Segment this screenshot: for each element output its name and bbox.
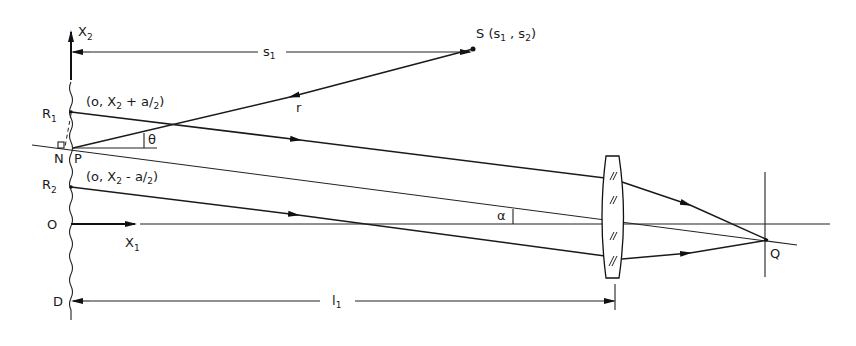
- r-label: r: [296, 100, 302, 115]
- lens: [602, 156, 624, 278]
- ray-R1: R1 (o, X2 + a/2): [42, 94, 768, 240]
- optics-diagram: X2 s1 S (s1 , s2) r R1 (o, X2 + a/2) N P: [0, 0, 856, 346]
- alpha-label: α: [497, 208, 506, 223]
- theta-label: θ: [148, 132, 156, 147]
- R1-coord-label: (o, X2 + a/2): [86, 94, 164, 111]
- Q-label: Q: [770, 246, 780, 261]
- N-label: N: [54, 151, 64, 166]
- source-point: S (s1 , s2): [471, 26, 536, 52]
- right-angle-marker: [58, 142, 64, 148]
- l1-label: l1: [332, 293, 341, 310]
- R2-coord-label: (o, X2 - a/2): [86, 169, 158, 186]
- diagram-canvas: X2 s1 S (s1 , s2) r R1 (o, X2 + a/2) N P: [0, 0, 856, 346]
- source-label: S (s1 , s2): [476, 26, 536, 43]
- s1-label: s1: [263, 44, 276, 61]
- ray-R2: R2 (o, X2 - a/2): [42, 169, 768, 259]
- D-label: D: [53, 294, 63, 309]
- l1-dimension: l1 D: [53, 284, 615, 310]
- R1-label: R1: [42, 106, 57, 124]
- x1-axis-label: X1: [125, 235, 140, 253]
- x1-axis: X1 O: [47, 217, 830, 253]
- x2-axis-label: X2: [78, 24, 93, 42]
- s1-dimension: s1: [73, 44, 470, 61]
- P-label: P: [74, 151, 82, 166]
- R2-label: R2: [42, 177, 57, 195]
- O-label: O: [47, 217, 57, 232]
